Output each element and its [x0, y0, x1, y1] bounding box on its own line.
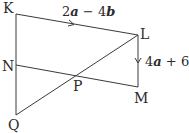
point-label-m: M: [134, 90, 148, 106]
point-label-q: Q: [8, 117, 19, 133]
point-label-n: N: [2, 58, 14, 74]
vector-label-kl: 2a − 4b: [62, 4, 115, 19]
vector-diagram: K L N P M Q 2a − 4b 4a + 6b: [0, 0, 189, 133]
point-label-p: P: [73, 78, 82, 94]
point-label-k: K: [3, 0, 14, 16]
point-label-l: L: [140, 26, 149, 42]
vector-label-lm: 4a + 6b: [145, 54, 189, 69]
segment-ql: [16, 35, 138, 115]
